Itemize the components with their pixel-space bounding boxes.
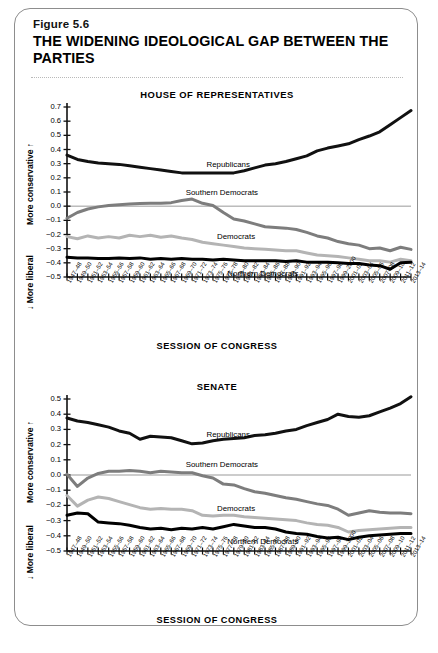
series-label-republicans: Republicans xyxy=(207,430,250,439)
series-line-southern-democrats xyxy=(67,199,411,251)
series-label-democrats: Democrats xyxy=(217,504,255,513)
figure-card: Figure 5.6 THE WIDENING IDEOLOGICAL GAP … xyxy=(14,8,418,626)
series-label-republicans: Republicans xyxy=(207,160,250,169)
figure-title: THE WIDENING IDEOLOGICAL GAP BETWEEN THE… xyxy=(33,33,401,67)
header-divider xyxy=(31,77,403,78)
series-label-democrats: Democrats xyxy=(217,232,255,241)
x-axis-caption-house: SESSION OF CONGRESS xyxy=(15,341,419,351)
series-label-southern-democrats: Southern Democrats xyxy=(186,188,258,197)
x-axis-caption-senate: SESSION OF CONGRESS xyxy=(15,615,419,625)
series-label-southern-democrats: Southern Democrats xyxy=(186,460,258,469)
figure-number: Figure 5.6 xyxy=(33,18,89,30)
